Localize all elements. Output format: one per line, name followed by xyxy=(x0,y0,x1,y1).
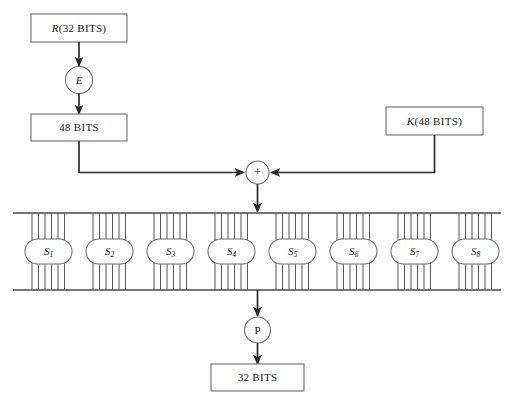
des-diagram-svg: R(32 BITS) E 48 BITS K(48 BITS) xyxy=(0,0,516,406)
expansion-node: E xyxy=(66,67,93,94)
output-box-label: 32 BITS xyxy=(238,371,278,383)
xor-node: + xyxy=(246,161,269,184)
key-box-label: K(48 BITS) xyxy=(406,115,462,128)
edge-expanded-to-xor xyxy=(79,141,244,173)
input-box-label: R(32 BITS) xyxy=(51,22,107,35)
sbox-group-8: S8 xyxy=(452,213,499,290)
edge-key-to-xor xyxy=(271,135,435,173)
sbox-group-5: S5 xyxy=(269,213,316,290)
permutation-node: P xyxy=(245,317,271,343)
sbox-group-6: S6 xyxy=(330,213,377,290)
sbox-group-1: S1 xyxy=(25,213,72,290)
input-box-label-italic: R xyxy=(51,22,59,34)
key-box-label-rest: (48 BITS) xyxy=(415,115,463,128)
expansion-label: E xyxy=(75,74,83,86)
sbox-group-3: S3 xyxy=(147,213,194,290)
sbox-group-7: S7 xyxy=(391,213,438,290)
input-box-label-rest: (32 BITS) xyxy=(59,22,107,35)
sbox-group-2: S2 xyxy=(86,213,133,290)
permutation-label: P xyxy=(254,324,260,336)
expanded-box-label: 48 BITS xyxy=(59,121,99,133)
input-box-node: R(32 BITS) xyxy=(31,14,127,42)
sbox-group-4: S4 xyxy=(208,213,255,290)
sbox-band: S1 S2 S3 xyxy=(13,213,501,290)
des-round-function-diagram: R(32 BITS) E 48 BITS K(48 BITS) xyxy=(0,0,516,406)
xor-label: + xyxy=(254,164,261,179)
key-box-node: K(48 BITS) xyxy=(386,107,483,135)
output-box-node: 32 BITS xyxy=(211,364,304,391)
expanded-box-node: 48 BITS xyxy=(31,114,127,141)
